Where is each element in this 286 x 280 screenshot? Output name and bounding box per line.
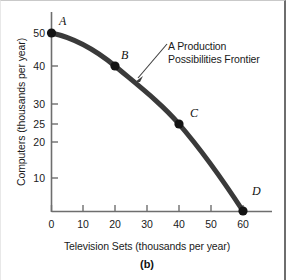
annotation-arrow (135, 44, 167, 82)
data-point-a (47, 28, 56, 37)
point-label-d: D (252, 184, 261, 199)
x-tick-label-10: 10 (77, 218, 89, 230)
point-label-c: C (190, 106, 198, 121)
x-tick-label-50: 50 (205, 218, 217, 230)
x-axis-title: Television Sets (thousands per year) (31, 240, 263, 252)
y-tick-marks (52, 33, 59, 178)
x-tick-label-30: 30 (141, 218, 153, 230)
x-tick-label-40: 40 (173, 218, 185, 230)
panel-caption: (b) (31, 258, 263, 270)
x-tick-label-60: 60 (237, 218, 249, 230)
point-label-b: B (121, 48, 128, 63)
x-tick-marks (52, 205, 244, 212)
ppf-annotation: A Production Possibilities Frontier (168, 40, 260, 65)
data-point-c (174, 119, 183, 128)
ppf-annotation-line1: A Production (168, 40, 260, 53)
data-point-d (238, 206, 247, 215)
figure-panel: 50 40 30 25 20 10 0 10 20 30 40 50 60 A … (0, 0, 286, 280)
x-tick-label-0: 0 (49, 218, 55, 230)
point-label-a: A (59, 14, 66, 29)
x-tick-label-20: 20 (109, 218, 121, 230)
y-axis-title: Computers (thousands per year) (15, 12, 27, 212)
ppf-annotation-line2: Possibilities Frontier (168, 53, 260, 66)
data-point-b (110, 61, 119, 70)
